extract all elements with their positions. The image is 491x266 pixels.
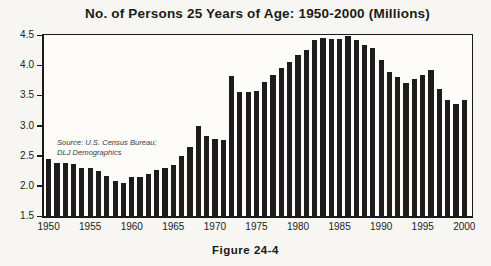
- y-tick-mark: [37, 35, 42, 37]
- bar-1981: [304, 50, 309, 216]
- bar-1955: [88, 168, 93, 216]
- source-note-line2: DLJ Demographics: [57, 148, 122, 157]
- y-tick-mark: [37, 95, 42, 97]
- bar-1995: [420, 75, 425, 216]
- bar-1998: [445, 100, 450, 216]
- figure-page: No. of Persons 25 Years of Age: 1950-200…: [0, 0, 491, 266]
- plot-area: [42, 34, 473, 218]
- bar-1999: [453, 104, 458, 216]
- bar-1956: [96, 171, 101, 216]
- bar-1958: [113, 181, 118, 216]
- bar-1950: [46, 159, 51, 216]
- bar-1951: [54, 163, 59, 216]
- figure-caption: Figure 24-4: [0, 244, 491, 256]
- bar-1963: [154, 170, 159, 216]
- x-tick-label-1960: 1960: [115, 221, 149, 232]
- bar-1962: [146, 174, 151, 216]
- bar-1982: [312, 40, 317, 216]
- bar-1994: [412, 79, 417, 216]
- bar-1979: [287, 62, 292, 216]
- bar-1960: [129, 177, 134, 216]
- bar-1954: [79, 168, 84, 216]
- bar-2000: [462, 100, 467, 216]
- bar-1983: [320, 38, 325, 216]
- chart-title: No. of Persons 25 Years of Age: 1950-200…: [42, 6, 473, 21]
- bar-1976: [262, 82, 267, 216]
- bar-1986: [345, 36, 350, 216]
- bar-1961: [137, 177, 142, 216]
- y-tick-label-2.5: 2.5: [8, 150, 34, 161]
- bar-1977: [270, 75, 275, 216]
- x-tick-label-1985: 1985: [323, 221, 357, 232]
- x-tick-label-1965: 1965: [156, 221, 190, 232]
- bar-1992: [395, 77, 400, 216]
- bar-1952: [63, 163, 68, 216]
- bar-1965: [171, 165, 176, 216]
- bar-1997: [437, 89, 442, 216]
- source-note-line1: Source: U.S. Census Bureau;: [57, 138, 157, 147]
- y-tick-label-4.0: 4.0: [8, 59, 34, 70]
- y-tick-label-2.0: 2.0: [8, 180, 34, 191]
- bar-1959: [121, 183, 126, 216]
- bar-1970: [212, 139, 217, 216]
- bar-1990: [379, 60, 384, 216]
- x-tick-label-1970: 1970: [198, 221, 232, 232]
- bar-1980: [295, 55, 300, 216]
- x-tick-label-1950: 1950: [32, 221, 66, 232]
- bar-1973: [237, 92, 242, 216]
- x-tick-label-1955: 1955: [73, 221, 107, 232]
- bar-1953: [71, 164, 76, 216]
- y-tick-label-4.5: 4.5: [8, 29, 34, 40]
- y-tick-label-3.5: 3.5: [8, 89, 34, 100]
- source-note: Source: U.S. Census Bureau; DLJ Demograp…: [57, 138, 157, 158]
- x-tick-label-1990: 1990: [364, 221, 398, 232]
- bar-1975: [254, 91, 259, 216]
- bar-1974: [246, 92, 251, 216]
- bar-1978: [279, 68, 284, 216]
- bar-1988: [362, 45, 367, 216]
- y-tick-mark: [37, 185, 42, 187]
- y-tick-label-3.0: 3.0: [8, 120, 34, 131]
- y-tick-mark: [37, 65, 42, 67]
- bar-1968: [196, 126, 201, 217]
- bar-1967: [187, 147, 192, 216]
- bar-1969: [204, 136, 209, 216]
- x-tick-label-1975: 1975: [239, 221, 273, 232]
- bar-1987: [354, 40, 359, 216]
- bar-1984: [329, 39, 334, 216]
- x-tick-label-2000: 2000: [447, 221, 481, 232]
- bar-1989: [370, 48, 375, 216]
- bar-1993: [403, 83, 408, 216]
- bar-1972: [229, 76, 234, 216]
- bar-1957: [104, 176, 109, 216]
- x-tick-label-1980: 1980: [281, 221, 315, 232]
- bar-1985: [337, 39, 342, 216]
- x-tick-label-1995: 1995: [406, 221, 440, 232]
- bar-1964: [162, 168, 167, 216]
- bar-1996: [428, 70, 433, 216]
- y-tick-mark: [37, 216, 42, 218]
- y-tick-label-1.5: 1.5: [8, 210, 34, 221]
- bar-1966: [179, 156, 184, 216]
- bar-1991: [387, 72, 392, 216]
- y-tick-mark: [37, 155, 42, 157]
- bar-1971: [221, 140, 226, 216]
- y-tick-mark: [37, 125, 42, 127]
